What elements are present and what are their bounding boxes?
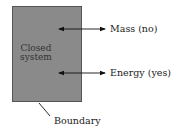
- boundary-label: Boundary: [54, 116, 101, 126]
- mass-label: Mass (no): [110, 24, 157, 34]
- energy-label: Energy (yes): [110, 68, 171, 78]
- boundary-leader-line: [39, 103, 50, 116]
